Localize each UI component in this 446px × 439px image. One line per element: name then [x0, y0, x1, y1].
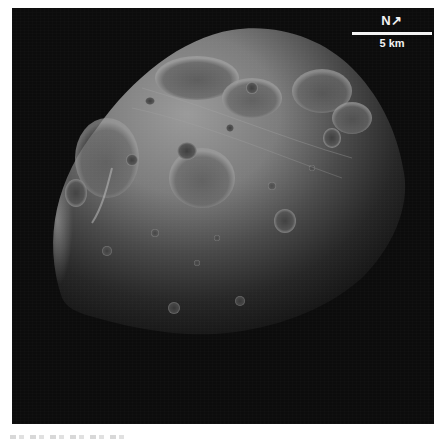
scale-bar-line	[352, 32, 432, 35]
north-label: N	[381, 13, 391, 28]
image-noise-overlay	[12, 8, 434, 424]
caption-text-fragment	[10, 435, 130, 439]
scale-distance-label: 5 km	[350, 37, 434, 49]
moon-image-frame: N↗ 5 km	[12, 8, 434, 424]
figure-caption-partial	[10, 432, 440, 439]
north-indicator: N↗	[350, 14, 434, 28]
scale-bar: N↗ 5 km	[350, 14, 434, 49]
north-arrow-icon: ↗	[391, 13, 403, 28]
